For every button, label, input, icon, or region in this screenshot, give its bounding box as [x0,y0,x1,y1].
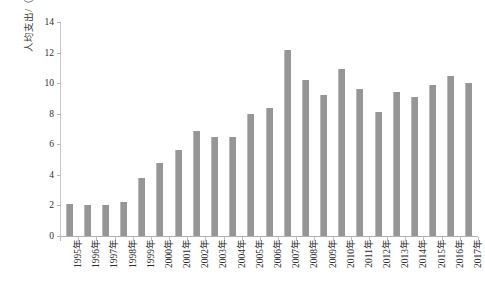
plot-area [60,22,478,236]
bar [247,114,254,236]
bar [393,92,400,236]
bar [447,76,454,237]
bar-chart: 人均支出/（美元/人） 02468101214 1995年1996年1997年1… [0,0,485,296]
x-tick-label: 2013年 [400,239,411,291]
bar [175,150,182,236]
bar [356,89,363,236]
y-tick-label: 10 [32,78,54,88]
y-tick-label: 12 [32,48,54,58]
x-tick-label: 1995年 [73,239,84,291]
y-tick-label: 0 [32,231,54,241]
y-tick-mark [57,53,61,54]
bar [138,178,145,236]
x-axis-tick-labels: 1995年1996年1997年1998年1999年2000年2001年2002年… [60,241,478,296]
x-tick-label: 2002年 [200,239,211,291]
y-tick-label: 8 [32,109,54,119]
x-tick-label: 2005年 [255,239,266,291]
y-tick-label: 2 [32,200,54,210]
y-tick-mark [57,205,61,206]
bar [266,108,273,236]
x-tick-label: 2001年 [182,239,193,291]
bar [211,137,218,236]
bar-series [60,22,478,236]
x-axis-line [60,236,478,237]
x-tick-label: 2012年 [382,239,393,291]
x-tick-label: 1999年 [146,239,157,291]
x-tick-label: 2015年 [437,239,448,291]
x-tick-label: 1996年 [91,239,102,291]
bar [411,97,418,236]
x-tick-label: 1997年 [109,239,120,291]
bar [84,205,91,236]
bar [302,80,309,236]
bar [120,202,127,236]
bar [156,163,163,236]
x-tick-label: 2016年 [455,239,466,291]
y-tick-label: 4 [32,170,54,180]
x-tick-label: 2017年 [473,239,484,291]
bar [465,83,472,236]
x-tick-label: 2010年 [346,239,357,291]
bar [320,95,327,236]
y-axis-tick-labels: 02468101214 [32,0,54,296]
x-tick-label: 1998年 [128,239,139,291]
y-tick-label: 6 [32,139,54,149]
x-tick-label: 2011年 [364,239,375,291]
y-tick-mark [57,22,61,23]
y-tick-mark [57,175,61,176]
x-tick-label: 2004年 [237,239,248,291]
x-tick-label: 2009年 [328,239,339,291]
bar [229,137,236,236]
x-tick-label: 2003年 [218,239,229,291]
x-tick-label: 2006年 [273,239,284,291]
x-tick-label: 2007年 [291,239,302,291]
bar [66,204,73,236]
y-tick-mark [57,83,61,84]
bar [375,112,382,236]
x-tick-label: 2014年 [418,239,429,291]
bar [284,50,291,236]
bar [193,131,200,236]
bar [429,85,436,236]
y-tick-mark [57,144,61,145]
x-tick-label: 2000年 [164,239,175,291]
bar [338,69,345,236]
x-tick-label: 2008年 [309,239,320,291]
y-tick-label: 14 [32,17,54,27]
y-tick-mark [57,114,61,115]
bar [102,205,109,236]
